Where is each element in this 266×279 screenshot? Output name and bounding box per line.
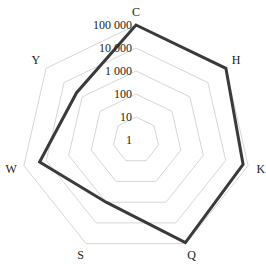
radial-tick-label: 1 000 bbox=[105, 64, 132, 78]
axis-label-k: K bbox=[256, 162, 265, 176]
grid-ring bbox=[91, 94, 181, 181]
axis-label-w: W bbox=[6, 162, 18, 176]
axis-label-y: Y bbox=[32, 53, 41, 67]
grid-ring bbox=[69, 71, 204, 202]
axis-label-q: Q bbox=[187, 248, 196, 262]
axis-label-s: S bbox=[77, 248, 84, 262]
radar-chart: 1101001 00010 000100 000 CHKQSWY bbox=[0, 0, 266, 279]
axis-labels: CHKQSWY bbox=[6, 5, 266, 262]
radial-tick-label: 100 000 bbox=[93, 18, 132, 32]
radial-tick-label: 1 bbox=[126, 133, 132, 147]
grid-ring bbox=[24, 25, 248, 244]
axis-label-c: C bbox=[132, 5, 140, 19]
radar-grid bbox=[24, 25, 248, 244]
radial-tick-label: 10 000 bbox=[99, 41, 132, 55]
radial-tick-label: 10 bbox=[120, 110, 132, 124]
radial-tick-label: 100 bbox=[114, 87, 132, 101]
axis-label-h: H bbox=[232, 53, 241, 67]
